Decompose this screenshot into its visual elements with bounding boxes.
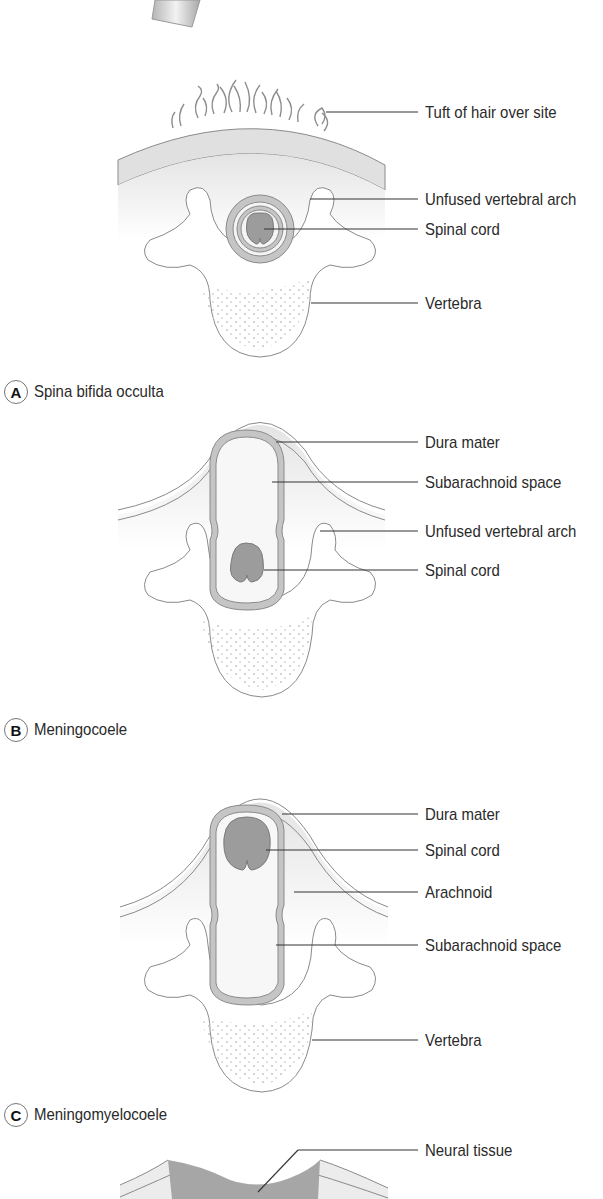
label-unfused-vertebral-arch: Unfused vertebral arch <box>425 523 576 540</box>
label-subarachnoid-space: Subarachnoid space <box>425 474 561 491</box>
panel-c-badge: C <box>4 1103 28 1127</box>
spina-bifida-figure: Tuft of hair over site Unfused vertebral… <box>0 0 603 1199</box>
label-neural-tissue: Neural tissue <box>425 1142 512 1159</box>
panel-c-caption: C Meningomyelocoele <box>4 1103 185 1127</box>
label-dura-mater: Dura mater <box>425 806 500 823</box>
panel-b-drawing <box>118 423 385 698</box>
label-vertebra: Vertebra <box>425 1032 482 1049</box>
label-spinal-cord: Spinal cord <box>425 842 500 859</box>
panel-b-badge: B <box>4 718 28 742</box>
panel-a-title: Spina bifida occulta <box>34 382 164 402</box>
label-unfused-vertebral-arch: Unfused vertebral arch <box>425 191 576 208</box>
label-vertebra: Vertebra <box>425 295 482 312</box>
panel-a-drawing <box>118 80 385 357</box>
panel-a-caption: A Spina bifida occulta <box>4 380 181 404</box>
label-spinal-cord: Spinal cord <box>425 221 500 238</box>
top-needle-fragment <box>152 0 200 27</box>
panel-b-title: Meningocoele <box>34 720 127 740</box>
label-arachnoid: Arachnoid <box>425 884 492 901</box>
label-subarachnoid-space: Subarachnoid space <box>425 937 561 954</box>
panel-c-title: Meningomyelocoele <box>34 1105 167 1125</box>
label-dura-mater: Dura mater <box>425 434 500 451</box>
hair-tuft <box>172 80 328 131</box>
panel-b-caption: B Meningocoele <box>4 718 140 742</box>
label-spinal-cord: Spinal cord <box>425 562 500 579</box>
panel-d-drawing <box>120 1150 418 1199</box>
label-tuft-of-hair: Tuft of hair over site <box>425 104 557 121</box>
panel-a-badge: A <box>4 380 28 404</box>
figure-illustration <box>0 0 603 1199</box>
